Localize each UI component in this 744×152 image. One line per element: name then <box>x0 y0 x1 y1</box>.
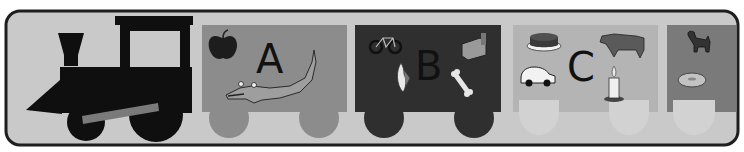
cake-icon <box>527 33 561 51</box>
car-b-wheel-front <box>364 98 404 138</box>
engine-cab-roof <box>115 16 193 25</box>
car-c-letter: C <box>567 44 595 90</box>
car-a-letter: A <box>256 36 284 82</box>
car-a-wheel-front <box>209 98 249 138</box>
car-b-wheel-back <box>454 98 494 138</box>
train-scene: A B <box>0 0 744 152</box>
car-b-letter: B <box>415 43 442 89</box>
car-a-wheel-back <box>299 98 339 138</box>
car-d-body <box>667 25 736 112</box>
engine-cab-window <box>130 31 180 67</box>
engine-big-wheel <box>129 88 183 142</box>
donut-icon <box>678 73 706 87</box>
